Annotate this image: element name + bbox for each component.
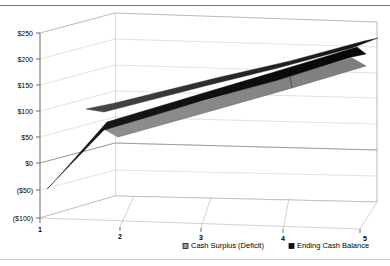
- gray-square-icon: [183, 244, 188, 249]
- y-tick-label: ($50): [17, 187, 33, 195]
- plot-box-back-wall: [115, 13, 377, 202]
- x-tick-label: 4: [281, 235, 285, 242]
- y-tick-label: $250: [17, 30, 33, 37]
- black-square-icon: [289, 244, 294, 249]
- y-axis: [36, 33, 40, 218]
- y-tick-label: $150: [17, 82, 33, 89]
- y-tick-label: $50: [21, 134, 33, 141]
- legend-label: Cash Surplus (Deficit): [191, 241, 264, 250]
- y-tick-label: $0: [25, 160, 33, 167]
- chart-legend: Cash Surplus (Deficit) Ending Cash Balan…: [183, 241, 369, 250]
- y-tick-label: ($100): [13, 215, 33, 223]
- x-tick-label: 2: [118, 233, 122, 240]
- x-tick-label: 1: [38, 226, 42, 233]
- legend-item-cash-surplus[interactable]: Cash Surplus (Deficit): [183, 241, 264, 250]
- y-tick-label: $100: [17, 108, 33, 115]
- x-axis-labels: 1 2 3 4 5: [38, 226, 367, 242]
- plot-box-left-wall: [40, 13, 115, 218]
- chart-plot-area: $250 $200 $150 $100 $50 $0 ($50) ($100): [0, 0, 390, 266]
- y-axis-labels: $250 $200 $150 $100 $50 $0 ($50) ($100): [13, 30, 33, 223]
- chart-container: $250 $200 $150 $100 $50 $0 ($50) ($100): [0, 0, 390, 266]
- legend-label: Ending Cash Balance: [297, 241, 369, 250]
- y-tick-label: $200: [17, 56, 33, 63]
- legend-item-ending-cash-balance[interactable]: Ending Cash Balance: [289, 241, 369, 250]
- x-tick-label: 3: [199, 234, 203, 241]
